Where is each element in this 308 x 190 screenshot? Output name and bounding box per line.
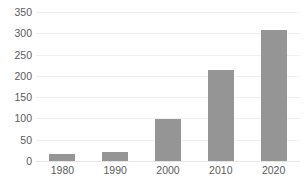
x-tick-label-2010: 2010 bbox=[209, 165, 232, 176]
x-tick-label-1980: 1980 bbox=[51, 165, 74, 176]
y-tick-label: 50 bbox=[20, 134, 32, 145]
bar-chart-figure: 050100150200250300350 198019902000201020… bbox=[0, 0, 308, 190]
bar-1990[interactable] bbox=[102, 152, 128, 161]
bar-2010[interactable] bbox=[208, 70, 234, 161]
y-tick-label: 0 bbox=[26, 156, 32, 167]
y-tick-label: 150 bbox=[14, 92, 32, 103]
chart-title bbox=[0, 0, 308, 3]
y-axis: 050100150200250300350 bbox=[0, 12, 32, 161]
bar-2020[interactable] bbox=[261, 30, 287, 161]
y-tick-label: 250 bbox=[14, 49, 32, 60]
bar-1980[interactable] bbox=[49, 154, 75, 161]
plot-area bbox=[36, 12, 300, 161]
gridline bbox=[36, 161, 300, 162]
y-tick-label: 200 bbox=[14, 71, 32, 82]
x-tick-label-2000: 2000 bbox=[156, 165, 179, 176]
x-axis: 19801990200020102020 bbox=[36, 165, 300, 181]
y-tick-label: 350 bbox=[14, 7, 32, 18]
y-tick-label: 100 bbox=[14, 113, 32, 124]
x-tick-label-1990: 1990 bbox=[104, 165, 127, 176]
x-tick-label-2020: 2020 bbox=[262, 165, 285, 176]
bars-group bbox=[36, 12, 300, 161]
y-tick-label: 300 bbox=[14, 28, 32, 39]
bar-2000[interactable] bbox=[155, 119, 181, 161]
